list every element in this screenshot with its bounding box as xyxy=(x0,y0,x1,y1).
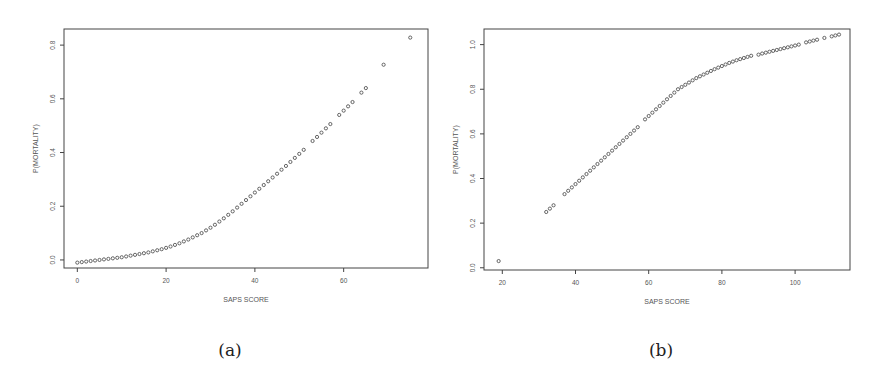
data-point xyxy=(275,172,278,175)
data-point xyxy=(746,55,749,58)
x-tick-label: 60 xyxy=(645,279,653,286)
x-tick-label: 60 xyxy=(340,277,348,284)
data-point xyxy=(200,231,203,234)
data-point xyxy=(240,202,243,205)
data-point xyxy=(750,54,753,57)
data-point xyxy=(329,122,332,125)
y-axis-label: P(MORTALITY) xyxy=(452,125,460,174)
data-point xyxy=(834,34,837,37)
data-point xyxy=(797,43,800,46)
y-axis-label: P(MORTALITY) xyxy=(32,124,40,173)
data-point xyxy=(695,76,698,79)
data-point xyxy=(815,38,818,41)
data-point xyxy=(581,176,584,179)
y-tick-label: 0.8 xyxy=(49,40,56,49)
data-point xyxy=(98,258,101,261)
data-point xyxy=(731,60,734,63)
data-point xyxy=(665,98,668,101)
x-tick-label: 20 xyxy=(162,277,170,284)
data-point xyxy=(160,248,163,251)
data-point xyxy=(89,259,92,262)
chart-panel-b: 204060801000.00.20.40.60.81.0SAPS SCOREP… xyxy=(443,0,886,330)
data-point xyxy=(227,213,230,216)
data-point xyxy=(209,226,212,229)
data-point xyxy=(804,41,807,44)
data-point xyxy=(578,179,581,182)
data-point xyxy=(204,229,207,232)
data-point xyxy=(812,39,815,42)
data-point xyxy=(289,160,292,163)
data-point xyxy=(76,261,79,264)
y-tick-label: 0.6 xyxy=(469,129,476,138)
data-point xyxy=(585,172,588,175)
x-tick-label: 40 xyxy=(572,279,580,286)
data-point xyxy=(196,234,199,237)
data-point xyxy=(654,108,657,111)
data-point xyxy=(338,113,341,116)
data-point xyxy=(739,58,742,61)
data-point xyxy=(830,35,833,38)
data-point xyxy=(164,246,167,249)
data-point xyxy=(545,210,548,213)
data-point xyxy=(169,245,172,248)
data-point xyxy=(382,63,385,66)
data-point xyxy=(548,207,551,210)
data-point xyxy=(552,204,555,207)
data-point xyxy=(618,142,621,145)
data-point xyxy=(567,189,570,192)
data-point xyxy=(120,256,123,259)
data-point xyxy=(302,148,305,151)
data-point xyxy=(111,257,114,260)
data-point xyxy=(673,91,676,94)
data-point xyxy=(218,220,221,223)
data-point xyxy=(742,56,745,59)
y-tick-label: 0.4 xyxy=(469,174,476,183)
data-point xyxy=(267,180,270,183)
data-point xyxy=(632,129,635,132)
data-point xyxy=(93,259,96,262)
data-point xyxy=(253,191,256,194)
caption-b: (b) xyxy=(631,340,691,360)
data-point xyxy=(116,256,119,259)
data-point xyxy=(761,52,764,55)
data-point xyxy=(717,66,720,69)
data-point xyxy=(662,101,665,104)
data-point xyxy=(129,254,132,257)
chart-panel-a: 02040600.00.20.40.60.8SAPS SCOREP(MORTAL… xyxy=(0,0,443,330)
data-point xyxy=(592,166,595,169)
data-point xyxy=(614,146,617,149)
data-point xyxy=(768,50,771,53)
data-point xyxy=(621,139,624,142)
data-point xyxy=(213,223,216,226)
data-point xyxy=(706,71,709,74)
data-point xyxy=(138,252,141,255)
x-axis-label: SAPS SCORE xyxy=(644,298,690,305)
data-point xyxy=(244,198,247,201)
data-point xyxy=(709,69,712,72)
data-point xyxy=(794,44,797,47)
y-tick-label: 1.0 xyxy=(469,40,476,49)
scatter-chart-a: 02040600.00.20.40.60.8SAPS SCOREP(MORTAL… xyxy=(0,0,443,330)
data-point xyxy=(643,118,646,121)
data-point xyxy=(757,53,760,56)
data-point xyxy=(360,91,363,94)
x-tick-label: 0 xyxy=(76,277,80,284)
data-point xyxy=(808,40,811,43)
data-point xyxy=(596,162,599,165)
data-point xyxy=(625,136,628,139)
data-point xyxy=(691,79,694,82)
data-point xyxy=(775,48,778,51)
data-point xyxy=(790,45,793,48)
data-point xyxy=(311,139,314,142)
data-point xyxy=(629,132,632,135)
plot-frame xyxy=(484,29,850,270)
data-point xyxy=(298,152,301,155)
y-tick-label: 0.6 xyxy=(49,94,56,103)
data-point xyxy=(315,135,318,138)
data-point xyxy=(236,206,239,209)
data-point xyxy=(364,86,367,89)
y-tick-label: 0.0 xyxy=(49,255,56,264)
y-tick-label: 0.4 xyxy=(49,148,56,157)
data-point xyxy=(680,85,683,88)
data-point xyxy=(837,33,840,36)
